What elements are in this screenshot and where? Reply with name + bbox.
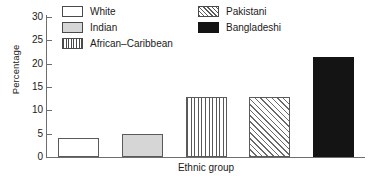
legend-item-african-caribbean: African–Caribbean	[62, 38, 173, 49]
y-tick-label: 25	[3, 34, 43, 45]
chart-legend: White Indian African–Caribbean Pakistani…	[62, 6, 362, 52]
legend-label: White	[90, 6, 116, 17]
legend-swatch-icon	[62, 6, 83, 17]
bar-white	[58, 138, 99, 157]
y-tick-label: 5	[3, 128, 43, 139]
bar-bangladeshi	[313, 57, 354, 157]
legend-label: Bangladeshi	[226, 22, 281, 33]
y-tick-label: 0	[3, 151, 43, 162]
x-axis-title: Ethnic group	[47, 162, 365, 173]
legend-item-pakistani: Pakistani	[198, 6, 267, 17]
legend-label: Indian	[90, 22, 117, 33]
y-tick-label: 10	[3, 104, 43, 115]
legend-label: African–Caribbean	[90, 38, 173, 49]
bar-african-caribbean	[186, 97, 227, 157]
legend-item-indian: Indian	[62, 22, 117, 33]
y-tick-label: 15	[3, 81, 43, 92]
y-tick-label: 30	[3, 11, 43, 22]
legend-swatch-icon	[62, 22, 83, 33]
bar-pakistani	[249, 97, 290, 157]
bar-chart: Percentage 30 25 20 15 10 5 0	[0, 0, 369, 186]
legend-label: Pakistani	[226, 6, 267, 17]
bar-indian	[122, 134, 163, 157]
x-axis-line	[46, 157, 365, 158]
y-tick-mark	[47, 157, 52, 158]
legend-item-bangladeshi: Bangladeshi	[198, 22, 281, 33]
legend-swatch-icon	[198, 6, 219, 17]
legend-swatch-icon	[62, 38, 83, 49]
y-tick-label: 20	[3, 58, 43, 69]
legend-item-white: White	[62, 6, 116, 17]
legend-swatch-icon	[198, 22, 219, 33]
